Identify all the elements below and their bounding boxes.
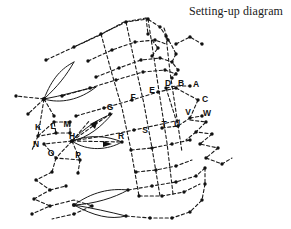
direction-arrows [90,120,112,147]
spoke-left-1 [16,96,44,99]
right-zigzag-3 [206,158,232,164]
label-A: A [193,79,199,89]
label-S: S [142,125,148,135]
zigzag-lower-left [32,172,52,214]
right-zigzag-2 [200,134,218,158]
spoke-left-3 [44,99,54,116]
label-K: K [35,122,42,132]
diagram-svg: A B C D E F G H K L M N O P R S T U V W [0,0,291,229]
dotted-network [16,18,232,219]
label-R: R [118,131,124,141]
label-U: U [174,119,180,129]
label-N: N [33,139,39,149]
label-B: B [178,78,184,88]
right-zigzag-1 [190,120,212,134]
h-spoke-o [56,141,72,158]
label-O: O [48,148,55,158]
o-down [52,158,56,172]
band-upper-1 [74,19,148,47]
klm-path-2 [40,133,56,136]
p-down [78,160,80,173]
label-E: E [149,85,155,95]
label-M: M [63,119,70,129]
h-spoke-n [44,141,72,144]
vw-link [190,116,202,118]
label-D: D [165,78,171,88]
bot-leaf-2-bot [74,205,126,218]
zigzag-hub [50,200,92,219]
label-C: C [202,94,208,104]
label-W: W [203,108,212,118]
label-P: P [75,150,81,160]
point-labels: A B C D E F G H K L M N O P R S T U V W [33,78,212,160]
cv-link [190,100,198,118]
h-spoke-r [72,141,122,142]
zigzag-branch [50,186,66,190]
label-F: F [130,92,135,102]
bot-leaf-2-top [74,205,126,216]
label-H: H [69,131,75,141]
label-T: T [161,119,167,129]
setting-up-diagram-canvas: Setting-up diagram [0,0,291,229]
label-V: V [185,107,191,117]
band-low-2 [136,160,192,172]
band-low-3 [139,184,200,196]
bc-link [176,88,198,100]
label-G: G [107,102,114,112]
label-L: L [50,121,55,131]
